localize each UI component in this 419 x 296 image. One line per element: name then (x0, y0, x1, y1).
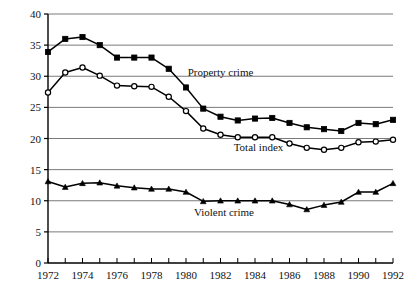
data-point-1972 (45, 90, 50, 95)
y-tick-label-20: 20 (30, 133, 42, 145)
data-point-1987 (304, 125, 309, 130)
data-point-1990 (356, 120, 361, 125)
data-point-1977 (132, 84, 137, 89)
data-point-1975 (97, 43, 102, 48)
data-point-1974 (80, 65, 85, 70)
x-tick-label-1992: 1992 (382, 269, 404, 281)
x-tick-label-1984: 1984 (244, 269, 267, 281)
data-point-1985 (270, 115, 275, 120)
data-point-1992 (390, 137, 395, 142)
data-point-1982 (218, 132, 223, 137)
data-point-1972 (45, 49, 50, 54)
data-point-1989 (339, 128, 344, 133)
x-tick-label-1980: 1980 (175, 269, 198, 281)
line-chart: 0510152025303540 19721974197619781980198… (0, 0, 419, 296)
violent-crime-label: Violent crime (194, 206, 254, 218)
data-point-1982 (218, 114, 223, 119)
data-point-1988 (321, 147, 326, 152)
data-point-1981 (201, 126, 206, 131)
data-point-1980 (183, 109, 188, 114)
data-point-1973 (63, 36, 68, 41)
y-tick-label-10: 10 (30, 195, 42, 207)
x-tick-label-1990: 1990 (348, 269, 371, 281)
data-point-1976 (114, 83, 119, 88)
chart-container: 0510152025303540 19721974197619781980198… (0, 0, 419, 296)
data-point-1975 (97, 73, 102, 78)
y-tick-label-30: 30 (30, 70, 42, 82)
x-axis-ticks-group (48, 258, 393, 263)
data-point-1989 (339, 145, 344, 150)
data-point-1991 (373, 122, 378, 127)
data-point-1985 (270, 135, 275, 140)
data-point-1981 (201, 106, 206, 111)
y-tick-label-40: 40 (30, 8, 42, 20)
chart-background (0, 0, 419, 296)
data-point-1987 (304, 145, 309, 150)
data-point-1986 (287, 141, 292, 146)
data-point-1983 (235, 118, 240, 123)
x-tick-label-1978: 1978 (141, 269, 164, 281)
x-axis-labels-group: 1972197419761978198019821984198619881990… (37, 269, 404, 281)
x-tick-label-1986: 1986 (279, 269, 302, 281)
property-crime-label: Property crime (188, 66, 254, 78)
data-point-1977 (132, 55, 137, 60)
y-tick-label-15: 15 (30, 164, 42, 176)
data-point-1988 (321, 127, 326, 132)
x-tick-label-1972: 1972 (37, 269, 59, 281)
data-point-1984 (252, 116, 257, 121)
data-point-1992 (390, 117, 395, 122)
data-point-1986 (287, 120, 292, 125)
data-point-1978 (149, 84, 154, 89)
x-tick-label-1974: 1974 (72, 269, 95, 281)
data-point-1991 (373, 139, 378, 144)
data-point-1976 (114, 55, 119, 60)
x-tick-label-1982: 1982 (210, 269, 232, 281)
data-point-1984 (252, 135, 257, 140)
total-index-label: Total index (234, 141, 284, 153)
data-point-1978 (149, 55, 154, 60)
y-tick-label-25: 25 (30, 101, 42, 113)
y-tick-label-5: 5 (36, 226, 42, 238)
data-point-1983 (235, 135, 240, 140)
data-point-1974 (80, 34, 85, 39)
data-point-1979 (166, 66, 171, 71)
y-tick-label-0: 0 (36, 257, 42, 269)
x-tick-label-1976: 1976 (106, 269, 129, 281)
data-point-1980 (183, 85, 188, 90)
data-point-1990 (356, 140, 361, 145)
x-tick-label-1988: 1988 (313, 269, 336, 281)
data-point-1979 (166, 94, 171, 99)
data-point-1973 (63, 70, 68, 75)
y-tick-label-35: 35 (30, 39, 42, 51)
